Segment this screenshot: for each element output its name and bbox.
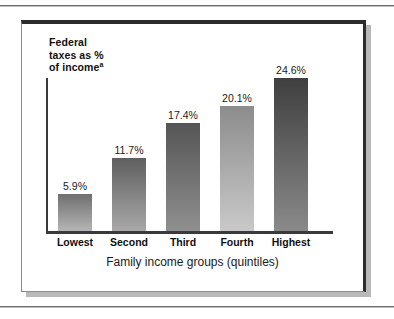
bar-value-label: 5.9% bbox=[48, 180, 102, 192]
bar[interactable] bbox=[274, 78, 308, 231]
bar-value-label: 24.6% bbox=[264, 64, 318, 76]
bars-area: 5.9%11.7%17.4%20.1%24.6% bbox=[48, 49, 338, 231]
page-rule-top bbox=[0, 5, 394, 7]
y-axis-caption-line-1: Federal bbox=[49, 36, 104, 49]
page-rule-bottom bbox=[0, 306, 394, 308]
bar[interactable] bbox=[220, 106, 254, 231]
category-label-lowest: Lowest bbox=[48, 236, 102, 248]
category-label-third: Third bbox=[156, 236, 210, 248]
bar-value-label: 17.4% bbox=[156, 109, 210, 121]
bar-slot: 24.6% bbox=[264, 49, 318, 231]
x-axis-title: Family income groups (quintiles) bbox=[22, 255, 363, 269]
bar-value-label: 20.1% bbox=[210, 92, 264, 104]
bar-slot: 5.9% bbox=[48, 49, 102, 231]
bar[interactable] bbox=[58, 194, 92, 231]
category-label-highest: Highest bbox=[264, 236, 318, 248]
bar-slot: 17.4% bbox=[156, 49, 210, 231]
figure-box: Federal taxes as % of incomea 5.9%11.7%1… bbox=[21, 20, 366, 292]
bar[interactable] bbox=[112, 158, 146, 231]
bar-chart: Federal taxes as % of incomea 5.9%11.7%1… bbox=[22, 24, 363, 291]
scanned-page: Federal taxes as % of incomea 5.9%11.7%1… bbox=[0, 0, 394, 319]
bar-value-label: 11.7% bbox=[102, 144, 156, 156]
bar-slot: 20.1% bbox=[210, 49, 264, 231]
bar[interactable] bbox=[166, 123, 200, 231]
category-labels: LowestSecondThirdFourthHighest bbox=[48, 236, 338, 252]
category-label-fourth: Fourth bbox=[210, 236, 264, 248]
x-axis-line bbox=[46, 231, 333, 234]
category-label-second: Second bbox=[102, 236, 156, 248]
bar-slot: 11.7% bbox=[102, 49, 156, 231]
